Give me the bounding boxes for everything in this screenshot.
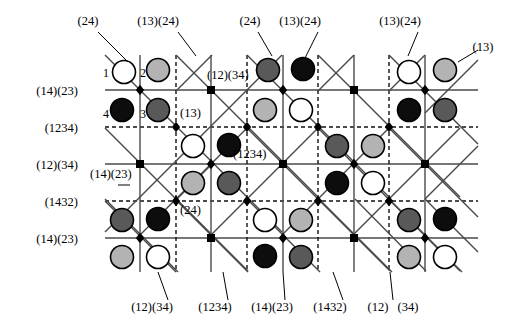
node-diamond[interactable] — [421, 233, 429, 243]
node-square[interactable] — [207, 86, 215, 94]
disc-dark[interactable] — [434, 99, 457, 122]
disc-white[interactable] — [254, 209, 277, 232]
disc-black[interactable] — [254, 245, 277, 268]
top-annotation-label: (13)(24) — [379, 15, 421, 28]
disc-white[interactable] — [147, 246, 170, 269]
top-annotation-label: (13)(24) — [279, 15, 321, 28]
leader-line — [390, 272, 393, 300]
disc-light[interactable] — [362, 135, 385, 158]
disc-dark[interactable] — [147, 99, 170, 122]
node-square[interactable] — [279, 160, 287, 168]
disc-white[interactable] — [182, 135, 205, 158]
node-square[interactable] — [350, 86, 358, 94]
top-annotation-label: (24) — [78, 15, 99, 28]
vertex-number: 3 — [140, 107, 146, 122]
node-diamond[interactable] — [136, 233, 144, 243]
disc-black[interactable] — [398, 99, 421, 122]
disc-light[interactable] — [111, 246, 134, 269]
disc-black[interactable] — [111, 99, 134, 122]
leader-line — [408, 32, 418, 56]
disc-dark[interactable] — [111, 209, 134, 232]
disc-white[interactable] — [290, 99, 313, 122]
disc-light[interactable] — [434, 59, 457, 82]
left-axis-label: (14)(23) — [36, 233, 78, 246]
vertex-number: 2 — [140, 66, 146, 81]
leader-line — [178, 32, 196, 56]
disc-white[interactable] — [113, 61, 136, 84]
vertex-number: 1 — [103, 66, 109, 81]
disc-light[interactable] — [398, 246, 421, 269]
bottom-annotation-label: (12)(34) — [131, 301, 173, 314]
disc-dark[interactable] — [257, 59, 280, 82]
leader-line — [283, 272, 285, 300]
bottom-annotation-label: (34) — [398, 301, 419, 314]
leader-line — [333, 272, 343, 300]
inner-annotation-label: (12)(34) — [207, 69, 249, 82]
bottom-annotation-label: (1432) — [313, 301, 346, 314]
disc-light[interactable] — [147, 59, 170, 82]
bottom-annotation-label: (12) — [368, 301, 389, 314]
disc-white[interactable] — [398, 61, 421, 84]
lattice-figure: (14)(23)(1234)(12)(34)(1432)(14)(23)(24)… — [0, 0, 510, 326]
disc-dark[interactable] — [398, 209, 421, 232]
top-annotation-label: (13) — [473, 41, 494, 54]
bottom-annotation-label: (1234) — [198, 301, 231, 314]
leader-line — [305, 32, 318, 58]
left-axis-label: (12)(34) — [36, 159, 78, 172]
leader-line — [98, 32, 128, 62]
disc-light[interactable] — [290, 209, 313, 232]
leader-line — [158, 272, 168, 300]
node-square[interactable] — [421, 160, 429, 168]
left-axis-label: (1432) — [45, 196, 78, 209]
node-square[interactable] — [207, 234, 215, 242]
node-diamond[interactable] — [243, 196, 251, 206]
leader-line — [223, 272, 228, 300]
disc-light[interactable] — [254, 99, 277, 122]
disc-dark[interactable] — [290, 246, 313, 269]
disc-black[interactable] — [292, 58, 315, 81]
disc-white[interactable] — [434, 246, 457, 269]
node-square[interactable] — [136, 160, 144, 168]
inner-annotation-label: (1234) — [233, 148, 266, 161]
leader-line — [258, 32, 272, 56]
disc-black[interactable] — [147, 208, 170, 231]
inner-annotation-label: (13) — [180, 107, 201, 120]
top-annotation-label: (24) — [240, 15, 261, 28]
left-axis-label: (1234) — [45, 122, 78, 135]
top-annotation-label: (13)(24) — [137, 15, 179, 28]
disc-dark[interactable] — [326, 135, 349, 158]
node-square[interactable] — [350, 234, 358, 242]
disc-black[interactable] — [326, 172, 349, 195]
bottom-annotation-label: (14)(23) — [251, 301, 293, 314]
left-axis-label: (14)(23) — [36, 85, 78, 98]
disc-dark[interactable] — [218, 172, 241, 195]
disc-black[interactable] — [434, 208, 457, 231]
disc-white[interactable] — [362, 172, 385, 195]
diagonal-line — [389, 128, 478, 217]
node-diamond[interactable] — [279, 233, 287, 243]
node-diamond[interactable] — [314, 196, 322, 206]
vertex-number: 4 — [103, 107, 109, 122]
inner-annotation-label: (14)(23) — [90, 168, 132, 181]
inner-annotation-label: (24) — [180, 204, 201, 217]
disc-light[interactable] — [182, 172, 205, 195]
